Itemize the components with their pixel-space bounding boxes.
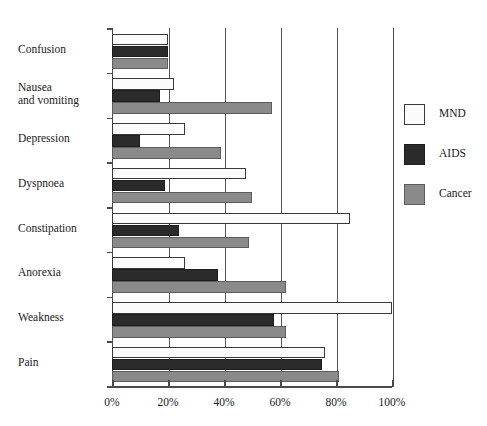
category-tick <box>107 207 112 209</box>
x-tick <box>392 380 394 387</box>
category-label-dyspnoea: Dyspnoea <box>18 177 106 191</box>
category-label-wrap: Confusion <box>18 43 106 57</box>
x-tick-label: 60% <box>269 396 290 408</box>
x-tick <box>280 380 282 387</box>
bar-aids <box>112 90 160 102</box>
x-tick-label: 20% <box>157 396 178 408</box>
bar-group <box>112 78 392 114</box>
bar-aids <box>112 135 140 147</box>
legend-label: MND <box>439 107 466 119</box>
bar-group <box>112 257 392 293</box>
x-tick <box>336 380 338 387</box>
legend-item-aids[interactable]: AIDS <box>404 144 484 184</box>
legend-item-cancer[interactable]: Cancer <box>404 184 484 224</box>
category-tick <box>107 73 112 75</box>
legend-label: AIDS <box>439 147 466 159</box>
bar-group <box>112 123 392 159</box>
x-tick-label: 100% <box>379 396 406 408</box>
horizontal-bar-chart: ConfusionNausea and vomitingDepressionDy… <box>0 0 487 426</box>
x-tick-label: 0% <box>104 396 119 408</box>
category-label-wrap: Depression <box>18 132 106 146</box>
category-label-wrap: Pain <box>18 356 106 370</box>
x-tick-label: 40% <box>213 396 234 408</box>
bar-cancer <box>112 192 252 204</box>
bar-mnd <box>112 123 185 135</box>
bar-aids <box>112 46 168 58</box>
category-label-confusion: Confusion <box>18 43 106 57</box>
bar-aids <box>112 180 165 192</box>
category-label-wrap: Dyspnoea <box>18 177 106 191</box>
category-label-pain: Pain <box>18 356 106 370</box>
category-tick <box>107 341 112 343</box>
bar-mnd <box>112 168 246 180</box>
bar-cancer <box>112 281 286 293</box>
bar-cancer <box>112 102 272 114</box>
category-tick <box>107 252 112 254</box>
bar-aids <box>112 269 218 281</box>
legend-swatch-cancer <box>404 184 425 205</box>
bar-cancer <box>112 326 286 338</box>
x-tick <box>224 380 226 387</box>
bar-aids <box>112 225 179 237</box>
category-label-nausea: Nausea and vomiting <box>18 81 106 108</box>
legend-item-mnd[interactable]: MND <box>404 104 484 144</box>
category-label-wrap: Constipation <box>18 222 106 236</box>
bar-mnd <box>112 34 168 46</box>
category-label-constipation: Constipation <box>18 222 106 236</box>
x-axis-line <box>112 386 392 388</box>
bar-group <box>112 302 392 338</box>
bar-group <box>112 347 392 383</box>
x-tick <box>112 380 114 387</box>
bar-mnd <box>112 347 325 359</box>
bar-group <box>112 168 392 204</box>
legend-swatch-aids <box>404 144 425 165</box>
bar-mnd <box>112 257 185 269</box>
category-label-wrap: Nausea and vomiting <box>18 81 106 108</box>
x-tick <box>168 380 170 387</box>
legend-label: Cancer <box>439 187 472 199</box>
bar-mnd <box>112 302 392 314</box>
x-tick-label: 80% <box>325 396 346 408</box>
chart-legend: MNDAIDSCancer <box>404 104 484 224</box>
bar-mnd <box>112 78 174 90</box>
bar-aids <box>112 314 274 326</box>
bar-cancer <box>112 237 249 249</box>
category-tick <box>107 28 112 30</box>
bar-cancer <box>112 58 168 70</box>
bar-aids <box>112 359 322 371</box>
bar-mnd <box>112 213 350 225</box>
category-tick <box>107 162 112 164</box>
category-label-wrap: Anorexia <box>18 266 106 280</box>
bar-cancer <box>112 147 221 159</box>
category-label-depression: Depression <box>18 132 106 146</box>
category-tick <box>107 118 112 120</box>
category-label-anorexia: Anorexia <box>18 266 106 280</box>
category-label-wrap: Weakness <box>18 311 106 325</box>
bar-group <box>112 34 392 70</box>
category-tick <box>107 297 112 299</box>
legend-swatch-mnd <box>404 104 425 125</box>
bar-group <box>112 213 392 249</box>
category-label-weakness: Weakness <box>18 311 106 325</box>
